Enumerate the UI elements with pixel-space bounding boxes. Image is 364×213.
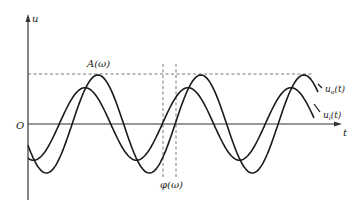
output-leader-line <box>318 84 322 88</box>
output-label-suffix: (t) <box>334 84 345 94</box>
origin-label: O <box>16 120 24 131</box>
phase-label: φ(ω) <box>160 179 183 190</box>
input-curve-label: ui(t) <box>323 110 342 121</box>
x-axis-arrow-icon <box>334 122 342 127</box>
y-axis-arrow-icon <box>26 14 31 22</box>
response-diagram: u t O A(ω) φ(ω) uo(t) ui(t) <box>0 0 364 213</box>
x-axis-label: t <box>343 127 348 138</box>
y-axis-label: u <box>32 13 38 24</box>
amplitude-label: A(ω) <box>86 58 110 69</box>
input-leader-line <box>314 104 320 112</box>
output-curve-label: uo(t) <box>325 84 346 95</box>
input-label-suffix: (t) <box>331 110 342 120</box>
